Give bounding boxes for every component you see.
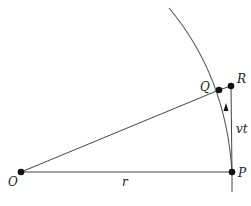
point-o xyxy=(18,169,25,176)
label-r: R xyxy=(236,72,246,86)
point-r xyxy=(228,83,235,90)
label-r-radius: r xyxy=(122,175,129,189)
point-q xyxy=(216,87,223,94)
point-p xyxy=(229,169,236,176)
label-o: O xyxy=(8,175,18,189)
label-vt: vt xyxy=(236,122,248,136)
label-q: Q xyxy=(200,80,210,94)
circular-path-arc xyxy=(169,8,232,192)
circular-motion-diagram: O P Q R r vt xyxy=(0,0,251,206)
arc-direction-arrow-icon xyxy=(224,103,229,111)
segment-oq xyxy=(21,90,219,172)
label-p: P xyxy=(237,166,247,180)
